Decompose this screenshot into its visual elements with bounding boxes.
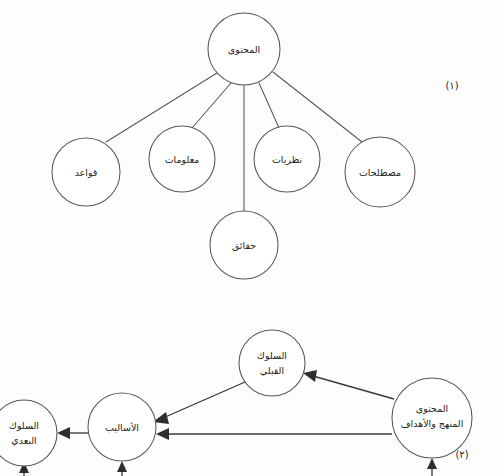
node-theories: نظريات bbox=[254, 126, 320, 192]
arrow-methods-to-post-head bbox=[57, 427, 70, 439]
node-methods-label: الأساليب bbox=[105, 422, 139, 433]
node-prior-behavior: السلوك القبلي bbox=[239, 330, 305, 396]
figure-one-group: المحتوى قواعد معلومات حقائق نظريات مصطلح bbox=[52, 13, 459, 279]
feedback-arrow-source-head bbox=[427, 458, 437, 469]
node-rules: قواعد bbox=[52, 138, 120, 206]
node-content-root: المحتوى bbox=[208, 13, 280, 85]
node-prior-behavior-shape bbox=[239, 330, 305, 396]
node-theories-label: نظريات bbox=[272, 154, 302, 165]
figure-one-edges bbox=[106, 72, 362, 211]
node-content-root-label: المحتوى bbox=[228, 44, 260, 55]
node-information-label: معلومات bbox=[165, 154, 200, 165]
arrow-methods-to-post bbox=[57, 427, 88, 439]
edge-content-to-theories bbox=[259, 83, 279, 128]
diagram-canvas: المحتوى قواعد معلومات حقائق نظريات مصطلح bbox=[0, 0, 504, 476]
node-facts: حقائق bbox=[210, 211, 278, 279]
node-facts-label: حقائق bbox=[232, 240, 256, 251]
node-post-behavior-label-line2: البعدي bbox=[11, 435, 36, 446]
node-methods: الأساليب bbox=[88, 393, 156, 461]
arrow-source-to-prior bbox=[303, 370, 394, 399]
arrow-source-to-methods bbox=[156, 428, 392, 440]
node-content-curriculum-objectives-label-line2: المنهج والأهداف bbox=[401, 418, 464, 429]
arrow-prior-to-methods bbox=[153, 382, 245, 424]
figure-two-group: السلوك القبلي المحتوى المنهج والأهداف ال… bbox=[0, 330, 472, 476]
node-post-behavior-label-line1: السلوك bbox=[9, 420, 39, 431]
node-post-behavior-shape bbox=[0, 400, 57, 466]
feedback-arrow-source bbox=[427, 458, 437, 476]
arrow-source-to-methods-head bbox=[156, 428, 169, 440]
diagram-page: المحتوى قواعد معلومات حقائق نظريات مصطلح bbox=[0, 0, 504, 476]
node-content-curriculum-objectives-label-line1: المحتوى bbox=[416, 403, 448, 414]
node-prior-behavior-label-line1: السلوك bbox=[257, 350, 287, 361]
figure-one-caption: (١) bbox=[445, 80, 458, 91]
arrow-source-to-prior-line bbox=[313, 376, 394, 399]
figure-two-caption: (٢) bbox=[455, 449, 468, 460]
node-content-curriculum-objectives: المحتوى المنهج والأهداف bbox=[392, 378, 472, 458]
feedback-arrow-methods-head bbox=[117, 461, 127, 472]
node-terminology: مصطلحات bbox=[345, 137, 415, 207]
node-prior-behavior-label-line2: القبلي bbox=[260, 365, 284, 376]
node-post-behavior: السلوك البعدي bbox=[0, 400, 57, 466]
node-information: معلومات bbox=[149, 126, 215, 192]
edge-content-to-information bbox=[192, 83, 231, 128]
arrow-source-to-prior-head bbox=[303, 370, 317, 382]
arrow-prior-to-methods-line bbox=[163, 382, 245, 418]
feedback-arrow-methods bbox=[117, 461, 127, 476]
node-rules-label: قواعد bbox=[75, 167, 98, 178]
node-terminology-label: مصطلحات bbox=[359, 167, 401, 178]
